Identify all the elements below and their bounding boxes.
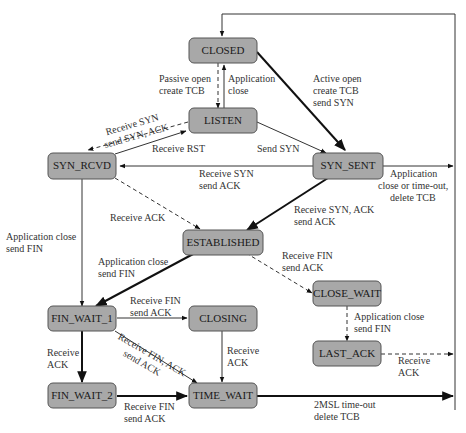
svg-text:FIN_WAIT_2: FIN_WAIT_2: [51, 389, 113, 401]
svg-text:CLOSE_WAIT: CLOSE_WAIT: [313, 287, 381, 299]
state-fin-wait-1: FIN_WAIT_1: [48, 306, 116, 331]
state-last-ack: LAST_ACK: [313, 341, 381, 366]
label-rcv-fin-fw1: Receive FINsend ACK: [130, 295, 181, 318]
label-app-close-synrcvd: Application closesend FIN: [6, 231, 77, 254]
state-closed: CLOSED: [189, 38, 257, 63]
label-rcv-fin-est: Receive FINsend ACK: [282, 250, 333, 273]
label-passive-open: Passive opencreate TCB: [159, 73, 211, 96]
label-rcv-rst: Receive RST: [152, 143, 205, 154]
svg-text:LISTEN: LISTEN: [204, 114, 242, 126]
state-established: ESTABLISHED: [183, 230, 263, 255]
tcp-state-diagram: CLOSED LISTEN SYN_RCVD SYN_SENT ESTABLIS…: [0, 0, 466, 433]
svg-text:LAST_ACK: LAST_ACK: [319, 347, 375, 359]
label-active-open: Active opencreate TCBsend SYN: [313, 73, 362, 108]
state-syn-rcvd: SYN_RCVD: [48, 153, 116, 179]
state-syn-sent: SYN_SENT: [313, 153, 383, 179]
label-app-close-synsent: Applicationclose or time-out,delete TCB: [378, 168, 448, 203]
label-rcv-synack: Receive SYN, ACKsend ACK: [294, 204, 375, 227]
state-listen: LISTEN: [189, 108, 257, 133]
svg-text:TIME_WAIT: TIME_WAIT: [193, 389, 253, 401]
label-rcv-ack-fw1: ReceiveACK: [47, 347, 80, 370]
label-rcv-ack-closing: ReceiveACK: [227, 345, 260, 368]
label-rcv-finack-fw1: Receive FIN, ACKsend ACK: [110, 331, 188, 389]
state-time-wait: TIME_WAIT: [189, 383, 257, 408]
label-app-close-listen: Applicationclose: [228, 73, 275, 96]
label-send-syn: Send SYN: [257, 143, 300, 154]
svg-text:ESTABLISHED: ESTABLISHED: [186, 236, 259, 248]
label-app-close-est: Application closesend FIN: [98, 256, 169, 279]
svg-text:CLOSED: CLOSED: [202, 44, 245, 56]
label-2msl-timeout: 2MSL time-outdelete TCB: [314, 399, 376, 422]
label-rcv-ack-synrcvd: Receive ACK: [110, 212, 166, 223]
svg-text:SYN_RCVD: SYN_RCVD: [53, 159, 111, 171]
label-rcv-fin-fw2: Receive FINsend ACK: [124, 401, 175, 424]
svg-text:CLOSING: CLOSING: [199, 312, 247, 324]
svg-text:SYN_SENT: SYN_SENT: [320, 159, 375, 171]
state-closing: CLOSING: [189, 306, 257, 331]
label-rcv-ack-lastack: ReceiveACK: [398, 355, 431, 378]
svg-text:FIN_WAIT_1: FIN_WAIT_1: [51, 312, 113, 324]
label-app-close-cw: Application closesend FIN: [354, 311, 425, 334]
label-rcv-syn-synsent: Receive SYNsend ACK: [199, 168, 254, 191]
state-close-wait: CLOSE_WAIT: [313, 281, 381, 306]
state-fin-wait-2: FIN_WAIT_2: [48, 383, 116, 408]
